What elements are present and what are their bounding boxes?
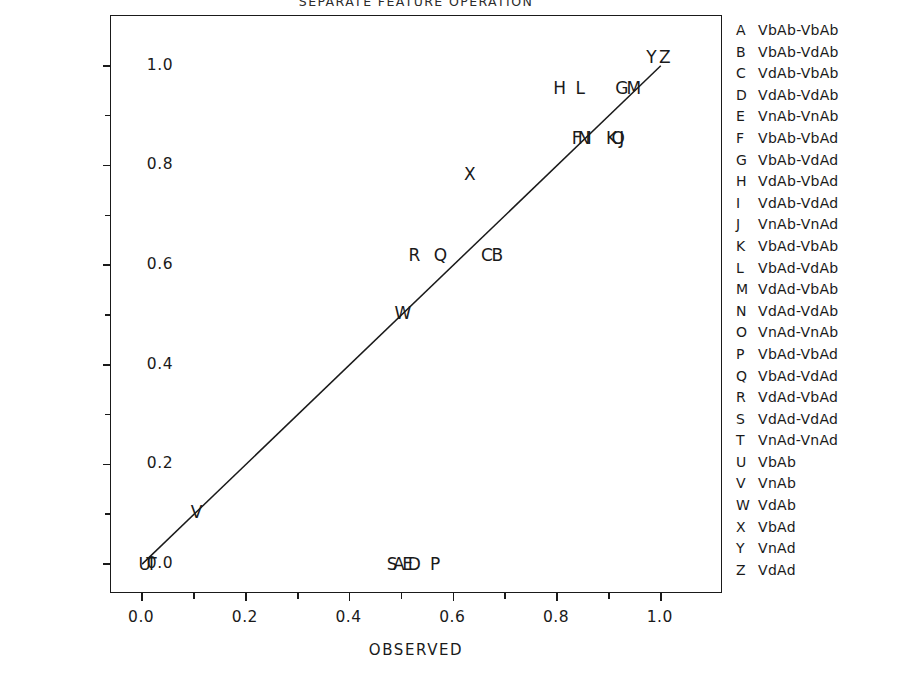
- data-point-p: P: [430, 556, 440, 573]
- legend-key: H: [736, 171, 758, 193]
- data-point-o: O: [612, 130, 625, 147]
- legend-key: Q: [736, 366, 758, 388]
- data-point-z: Z: [659, 48, 671, 65]
- y-tick-label: 0.2: [113, 454, 173, 472]
- legend-description: VbAd-VdAd: [758, 366, 838, 388]
- legend-description: VdAd-VdAd: [758, 409, 838, 431]
- legend-key: S: [736, 409, 758, 431]
- legend-item: ZVdAd: [736, 560, 901, 582]
- y-tick-minor: [105, 115, 111, 117]
- y-tick-major: [103, 165, 111, 167]
- legend-item: FVbAb-VbAd: [736, 128, 901, 150]
- legend-item: HVdAb-VbAd: [736, 171, 901, 193]
- legend-item: KVbAd-VbAb: [736, 236, 901, 258]
- legend-description: VbAb-VbAb: [758, 20, 839, 42]
- legend-item: VVnAb: [736, 473, 901, 495]
- y-tick-label: 0.8: [113, 155, 173, 173]
- data-point-s: S: [387, 556, 398, 573]
- data-point-q: Q: [434, 247, 447, 264]
- legend-item: QVbAd-VdAd: [736, 366, 901, 388]
- legend-key: O: [736, 322, 758, 344]
- legend-key: C: [736, 63, 758, 85]
- legend-key: T: [736, 430, 758, 452]
- legend-description: VnAd-VnAb: [758, 322, 839, 344]
- figure: SEPARATE FEATURE OPERATION ABCDEFGHIJKLM…: [0, 0, 901, 679]
- data-point-e: E: [402, 556, 413, 573]
- data-point-l: L: [576, 80, 585, 97]
- legend-item: TVnAd-VnAd: [736, 430, 901, 452]
- y-tick-label: 1.0: [113, 56, 173, 74]
- legend-item: XVbAd: [736, 517, 901, 539]
- x-tick-label: 1.0: [625, 608, 695, 626]
- legend-key: A: [736, 20, 758, 42]
- x-tick-label: 0.8: [521, 608, 591, 626]
- y-tick-major: [103, 65, 111, 67]
- legend-description: VdAb-VdAb: [758, 85, 839, 107]
- legend-item: NVdAd-VdAb: [736, 301, 901, 323]
- legend-item: SVdAd-VdAd: [736, 409, 901, 431]
- legend-description: VbAb: [758, 452, 796, 474]
- x-tick-minor: [401, 593, 403, 599]
- legend-item: DVdAb-VdAb: [736, 85, 901, 107]
- y-tick-major: [103, 563, 111, 565]
- legend: AVbAb-VbAbBVbAb-VdAbCVdAb-VbAbDVdAb-VdAb…: [736, 20, 901, 581]
- y-tick-major: [103, 264, 111, 266]
- legend-description: VbAd: [758, 517, 796, 539]
- reference-line: [111, 16, 723, 594]
- y-tick-minor: [105, 513, 111, 515]
- legend-description: VbAb-VbAd: [758, 128, 839, 150]
- data-point-v: V: [191, 503, 203, 520]
- legend-item: YVnAd: [736, 538, 901, 560]
- legend-description: VdAb-VbAb: [758, 63, 839, 85]
- x-tick-minor: [504, 593, 506, 599]
- plot-area: ABCDEFGHIJKLMNOPQRSTUVWXYZ: [111, 16, 721, 592]
- x-tick-minor: [297, 593, 299, 599]
- data-point-b: B: [492, 247, 504, 264]
- chart-title: SEPARATE FEATURE OPERATION: [110, 0, 722, 7]
- legend-description: VdAd: [758, 560, 796, 582]
- y-tick-minor: [105, 215, 111, 217]
- legend-description: VdAb: [758, 495, 796, 517]
- legend-item: MVdAd-VbAb: [736, 279, 901, 301]
- legend-key: W: [736, 495, 758, 517]
- legend-description: VnAb: [758, 473, 796, 495]
- legend-description: VbAb-VdAd: [758, 150, 839, 172]
- x-tick-major: [245, 593, 247, 601]
- data-point-n: N: [578, 130, 591, 147]
- y-tick-major: [103, 464, 111, 466]
- y-tick-label: 0.0: [113, 554, 173, 572]
- legend-key: M: [736, 279, 758, 301]
- legend-item: JVnAb-VnAd: [736, 214, 901, 236]
- legend-key: R: [736, 387, 758, 409]
- legend-description: VdAd-VbAd: [758, 387, 838, 409]
- x-tick-label: 0.2: [210, 608, 280, 626]
- x-tick-major: [556, 593, 558, 601]
- data-point-r: R: [409, 247, 421, 264]
- legend-key: G: [736, 150, 758, 172]
- legend-key: X: [736, 517, 758, 539]
- data-point-h: H: [553, 80, 566, 97]
- legend-description: VbAd-VbAb: [758, 236, 839, 258]
- legend-description: VbAb-VdAb: [758, 42, 839, 64]
- x-tick-major: [453, 593, 455, 601]
- legend-key: U: [736, 452, 758, 474]
- data-point-y: Y: [646, 48, 656, 65]
- legend-key: V: [736, 473, 758, 495]
- x-tick-major: [349, 593, 351, 601]
- x-tick-major: [141, 593, 143, 601]
- legend-description: VdAb-VdAd: [758, 193, 839, 215]
- legend-description: VdAb-VbAd: [758, 171, 839, 193]
- legend-description: VnAb-VnAb: [758, 106, 839, 128]
- legend-description: VbAd-VdAb: [758, 258, 839, 280]
- x-tick-major: [660, 593, 662, 601]
- legend-key: N: [736, 301, 758, 323]
- data-point-m: M: [626, 80, 641, 97]
- legend-key: K: [736, 236, 758, 258]
- legend-key: I: [736, 193, 758, 215]
- legend-description: VbAd-VbAd: [758, 344, 838, 366]
- legend-key: Y: [736, 538, 758, 560]
- y-tick-minor: [105, 414, 111, 416]
- plot-frame: ABCDEFGHIJKLMNOPQRSTUVWXYZ: [110, 15, 722, 593]
- legend-description: VnAb-VnAd: [758, 214, 839, 236]
- legend-key: J: [736, 214, 758, 236]
